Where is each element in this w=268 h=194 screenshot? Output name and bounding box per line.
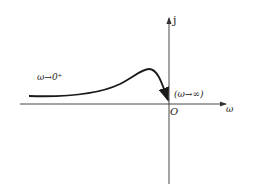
end-annotation: (ω→∞) (174, 89, 203, 99)
origin-label: O (170, 106, 178, 117)
start-annotation: ω→0⁺ (37, 72, 62, 82)
diagram-svg (0, 0, 268, 194)
nyquist-diagram: j ω O ω→0⁺ (ω→∞) (0, 0, 268, 194)
real-axis-label: ω (226, 104, 233, 114)
imaginary-axis-label: j (173, 14, 176, 27)
